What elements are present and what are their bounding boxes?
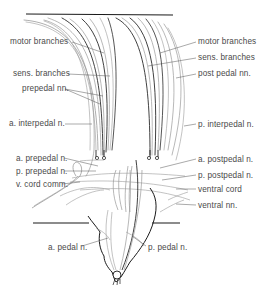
label-v-cord-comm: v. cord comm. bbox=[16, 181, 68, 189]
ventral-cord-fibers bbox=[60, 173, 190, 212]
label-ventral-cord: ventral cord bbox=[198, 186, 242, 194]
label-a-pedal-n: a. pedal n. bbox=[48, 244, 87, 252]
label-motor-branches-right: motor branches bbox=[198, 38, 256, 46]
label-p-pedal-n: p. pedal n. bbox=[148, 244, 187, 252]
body-wall-top-line bbox=[26, 14, 173, 15]
label-a-interpedal-n: a. interpedal n. bbox=[9, 120, 65, 128]
label-sens-branches-right: sens. branches bbox=[198, 54, 255, 62]
right-nerve-bundle bbox=[116, 18, 184, 160]
pedal-lobe-outline bbox=[88, 188, 156, 282]
label-motor-branches-left: motor branches bbox=[10, 38, 68, 46]
central-pedal-structures bbox=[113, 160, 142, 270]
label-p-interpedal-n: p. interpedal n. bbox=[198, 121, 254, 129]
label-p-prepedal-n: p. prepedal n. bbox=[16, 168, 67, 176]
pedal-tip-bulb bbox=[113, 271, 121, 279]
label-a-prepedal-n: a. prepedal n. bbox=[16, 155, 67, 163]
label-prepedal-nn: prepedal nn. bbox=[22, 85, 69, 93]
right-ganglia bbox=[147, 150, 158, 160]
label-a-postpedal-n: a. postpedal n. bbox=[198, 156, 253, 164]
leader-lines-right bbox=[132, 42, 196, 246]
label-sens-branches-left: sens. branches bbox=[13, 70, 70, 78]
label-p-postpedal-n: p. postpedal n. bbox=[198, 172, 253, 180]
label-post-pedal-nn: post pedal nn. bbox=[198, 70, 251, 78]
label-ventral-nn: ventral nn. bbox=[198, 202, 237, 210]
